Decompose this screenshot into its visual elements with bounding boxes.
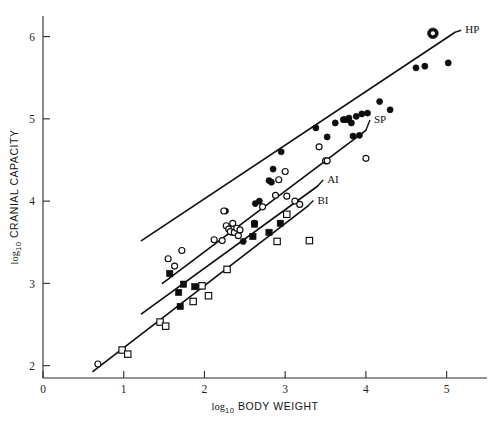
data-point-filled-square — [192, 283, 198, 289]
data-point-filled-circle — [270, 166, 276, 172]
data-point-filled-circle — [313, 125, 319, 131]
data-point-open-circle — [260, 204, 266, 210]
data-point-filled-circle — [377, 98, 383, 104]
data-point-filled-circle — [348, 120, 354, 126]
data-point-filled-circle — [445, 60, 451, 66]
data-point-open-square — [125, 351, 131, 357]
data-point-highlight-inner — [431, 31, 435, 35]
data-point-open-square — [205, 293, 211, 299]
x-tick-label: 0 — [40, 383, 46, 395]
y-tick-label: 4 — [29, 195, 35, 207]
data-point-filled-circle — [268, 179, 274, 185]
data-point-filled-square — [180, 281, 186, 287]
data-point-open-square — [163, 323, 169, 329]
line-label-bi: BI — [317, 194, 328, 206]
data-point-filled-square — [277, 220, 283, 226]
data-point-open-square — [274, 238, 280, 244]
data-point-filled-square — [167, 270, 173, 276]
data-point-open-circle — [211, 237, 217, 243]
plot-canvas: 23456 012345 HPSPAIBI log10 BODY WEIGHT … — [0, 0, 492, 427]
data-point-open-circle — [179, 247, 185, 253]
data-point-filled-circle — [324, 134, 330, 140]
y-tick-label: 2 — [29, 360, 35, 372]
data-point-open-square — [224, 266, 230, 272]
data-point-open-circle — [272, 192, 278, 198]
data-point-filled-circle — [350, 133, 356, 139]
data-point-filled-circle — [422, 63, 428, 69]
series-highlight — [428, 28, 439, 39]
data-point-open-circle — [363, 155, 369, 161]
data-point-filled-circle — [240, 238, 246, 244]
data-point-filled-circle — [413, 65, 419, 71]
line-label-sp: SP — [374, 113, 386, 125]
x-tick-label: 2 — [202, 383, 208, 395]
data-point-filled-square — [175, 289, 181, 295]
data-point-open-square — [284, 211, 290, 217]
y-tick-label: 3 — [29, 278, 35, 290]
y-tick-label: 6 — [29, 31, 35, 43]
data-point-open-circle — [219, 238, 225, 244]
scatter-plot-figure: 23456 012345 HPSPAIBI log10 BODY WEIGHT … — [0, 0, 492, 427]
data-point-filled-square — [251, 221, 257, 227]
y-tick-label: 5 — [29, 113, 35, 125]
data-point-open-circle — [276, 177, 282, 183]
x-tick-label: 4 — [363, 383, 369, 395]
data-point-filled-square — [177, 303, 183, 309]
data-point-open-circle — [316, 144, 322, 150]
data-point-open-circle — [282, 168, 288, 174]
data-point-open-circle — [297, 201, 303, 207]
data-point-filled-circle — [256, 198, 262, 204]
data-point-filled-circle — [356, 132, 362, 138]
data-point-open-circle — [284, 193, 290, 199]
data-point-open-circle — [235, 233, 241, 239]
plot-background — [0, 0, 492, 427]
data-point-filled-square — [250, 233, 256, 239]
x-tick-label: 3 — [282, 383, 288, 395]
data-point-open-circle — [172, 263, 178, 269]
x-tick-label: 1 — [121, 383, 127, 395]
x-tick-label: 5 — [444, 383, 450, 395]
data-point-open-circle — [165, 256, 171, 262]
data-point-filled-circle — [387, 107, 393, 113]
line-label-ai: AI — [327, 173, 339, 185]
line-label-hp: HP — [465, 23, 479, 35]
data-point-filled-circle — [364, 110, 370, 116]
data-point-open-circle — [324, 158, 330, 164]
data-point-filled-square — [266, 229, 272, 235]
data-point-open-square — [190, 298, 196, 304]
data-point-open-circle — [237, 227, 243, 233]
data-point-open-circle — [95, 361, 101, 367]
data-point-filled-circle — [359, 111, 365, 117]
data-point-filled-circle — [278, 149, 284, 155]
data-point-filled-circle — [353, 113, 359, 119]
data-point-filled-circle — [332, 120, 338, 126]
data-point-open-square — [199, 283, 205, 289]
data-point-open-square — [306, 237, 312, 243]
data-point-open-circle — [221, 208, 227, 214]
